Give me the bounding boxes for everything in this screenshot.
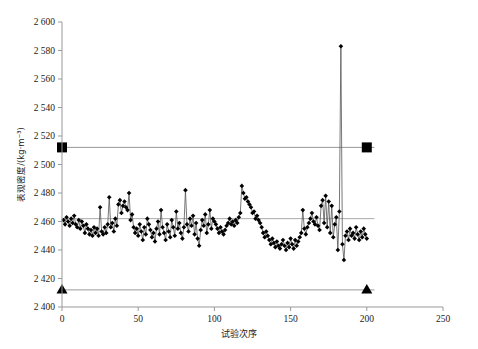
chart-container: 2 4002 4202 4402 4602 4802 5002 5202 540… — [0, 0, 478, 349]
y-tick-label: 2 520 — [34, 131, 56, 141]
y-tick-label: 2 500 — [34, 160, 56, 170]
y-tick-label: 2 540 — [34, 103, 56, 113]
x-tick-label: 150 — [283, 314, 298, 324]
y-axis-title: 表观密度/(kg·m⁻³) — [16, 127, 26, 202]
y-tick-label: 2 580 — [34, 46, 56, 56]
y-tick-label: 2 460 — [34, 217, 56, 227]
y-tick-label: 2 600 — [34, 17, 56, 27]
chart-background — [0, 0, 478, 349]
apparent-density-control-chart: 2 4002 4202 4402 4602 4802 5002 5202 540… — [0, 0, 478, 349]
x-axis-title: 试验次序 — [221, 328, 257, 339]
y-tick-label: 2 560 — [34, 74, 56, 84]
x-tick-label: 50 — [133, 314, 143, 324]
x-tick-label: 0 — [60, 314, 65, 324]
x-tick-label: 100 — [207, 314, 222, 324]
y-tick-label: 2 480 — [34, 188, 56, 198]
y-tick-label: 2 420 — [34, 274, 56, 284]
y-tick-label: 2 400 — [34, 302, 56, 312]
x-tick-label: 250 — [436, 314, 451, 324]
x-tick-label: 200 — [360, 314, 375, 324]
y-tick-label: 2 440 — [34, 245, 56, 255]
upper-control-limit-square-marker — [362, 142, 372, 152]
